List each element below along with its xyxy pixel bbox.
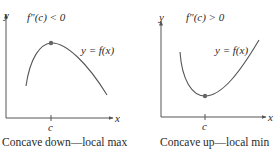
left-local-max-point xyxy=(49,41,53,45)
right-caption: Concave up—local min xyxy=(160,136,269,148)
left-panel: y x c f″(c) < 0 y = f(x) xyxy=(3,9,120,133)
right-local-min-point xyxy=(203,94,207,98)
right-curve-label: y = f(x) xyxy=(214,44,248,57)
left-c-label: c xyxy=(48,121,53,133)
right-y-axis-label: y xyxy=(158,11,164,23)
diagram-canvas: y x c f″(c) < 0 y = f(x) y x c f″(c) > 0… xyxy=(0,0,277,151)
second-derivative-test-figure: y x c f″(c) < 0 y = f(x) y x c f″(c) > 0… xyxy=(0,0,277,151)
right-panel: y x c f″(c) > 0 y = f(x) xyxy=(158,11,273,132)
right-condition-label: f″(c) > 0 xyxy=(186,11,225,24)
left-caption: Concave down—local max xyxy=(2,136,127,148)
left-curve-label: y = f(x) xyxy=(80,44,114,57)
left-condition-label: f″(c) < 0 xyxy=(27,11,66,24)
left-y-axis-label: y xyxy=(3,9,9,21)
right-x-axis-label: x xyxy=(267,111,273,123)
right-c-label: c xyxy=(202,120,207,132)
left-x-axis-label: x xyxy=(114,112,120,124)
